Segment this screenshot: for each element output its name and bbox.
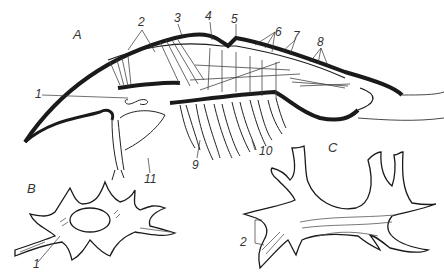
label-a-2: 2 [138, 16, 145, 28]
panel-label-c: C [328, 141, 337, 154]
panel-label-b: B [27, 182, 36, 195]
label-a-11: 11 [144, 173, 156, 185]
panel-label-a: A [73, 28, 82, 41]
label-a-10: 10 [259, 145, 272, 157]
label-c-2: 2 [240, 236, 247, 248]
label-a-6: 6 [275, 26, 282, 38]
label-a-8: 8 [317, 36, 324, 48]
panel-b-drawing [15, 182, 175, 260]
label-a-9: 9 [192, 159, 199, 171]
label-b-1: 1 [33, 258, 40, 270]
label-a-7: 7 [293, 30, 300, 42]
label-a-5: 5 [231, 13, 238, 25]
label-a-4: 4 [205, 10, 212, 22]
anatomical-diagram [0, 0, 444, 280]
label-a-3: 3 [174, 12, 181, 24]
panel-c-drawing [244, 146, 436, 268]
label-a-1: 1 [35, 88, 42, 100]
